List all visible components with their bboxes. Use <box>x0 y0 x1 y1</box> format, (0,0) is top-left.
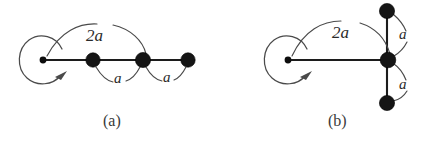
panel-b-label-a-top: a <box>399 27 407 42</box>
panel-a-label-a-1: a <box>114 71 122 86</box>
figure-canvas <box>0 0 427 152</box>
panel-b-vertex-top <box>379 3 394 18</box>
panel-a-arc-a2-left <box>146 67 162 81</box>
panel-a-arc-a-right <box>126 67 140 81</box>
panel-b-label-a-bottom: a <box>399 77 407 92</box>
panel-a-vertex-1 <box>86 53 100 67</box>
panel-b-graphics <box>264 3 407 110</box>
panel-b-arc-2a-right <box>360 23 390 54</box>
panel-a-vertex-3 <box>181 53 195 67</box>
panel-b-arc-a-top-lower <box>394 42 407 56</box>
panel-b-root-dot <box>285 57 292 64</box>
panel-b-caption: (b) <box>328 113 347 129</box>
panel-b-vertex-bottom <box>379 95 394 110</box>
figure-container: 2a a a (a) 2a a a (b) <box>0 0 427 152</box>
panel-a-label-a-2: a <box>163 70 171 85</box>
panel-a-vertex-2 <box>135 52 150 67</box>
panel-a-caption: (a) <box>103 113 121 129</box>
panel-a-root-dot <box>40 57 47 64</box>
panel-a-arc-a2-right <box>174 67 186 80</box>
panel-b-vertex-hub <box>380 52 396 68</box>
panel-a-arc-a-left <box>96 67 113 82</box>
panel-a-label-2a: 2a <box>86 27 103 44</box>
panel-a-arc-2a-right <box>113 25 146 54</box>
panel-b-arc-a-bottom-lower <box>393 91 407 101</box>
panel-b-label-2a: 2a <box>332 24 349 41</box>
